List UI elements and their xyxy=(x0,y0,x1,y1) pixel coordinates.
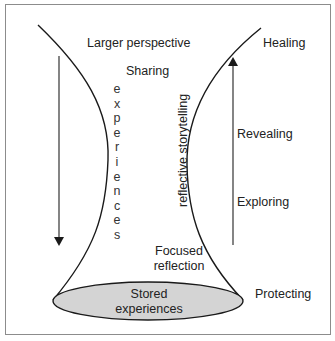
experiences-letter: x xyxy=(111,97,123,112)
sharing-label: Sharing xyxy=(126,64,169,79)
experiences-letter: p xyxy=(111,111,123,126)
exploring-label: Exploring xyxy=(237,195,289,210)
experiences-letter: c xyxy=(111,199,123,214)
experiences-letter: e xyxy=(111,126,123,141)
experiences-letter: e xyxy=(111,170,123,185)
experiences-vertical-label: experiences xyxy=(111,82,123,243)
left-funnel-curve xyxy=(38,25,108,300)
stored-experiences-label: Stored experiences xyxy=(110,287,188,317)
protecting-label: Protecting xyxy=(255,287,311,302)
focused-reflection-line2: reflection xyxy=(148,259,210,274)
stored-experiences-line2: experiences xyxy=(110,302,188,317)
experiences-letter: e xyxy=(111,82,123,97)
down-arrow-icon xyxy=(54,56,64,246)
revealing-label: Revealing xyxy=(237,127,293,142)
larger-perspective-label: Larger perspective xyxy=(87,36,191,51)
reflective-storytelling-label: reflective storytelling xyxy=(176,94,190,207)
experiences-letter: r xyxy=(111,140,123,155)
focused-reflection-label: Focused reflection xyxy=(148,244,210,274)
up-arrow-icon xyxy=(228,57,238,245)
stored-experiences-line1: Stored xyxy=(110,287,188,302)
focused-reflection-line1: Focused xyxy=(148,244,210,259)
experiences-letter: i xyxy=(111,155,123,170)
experiences-letter: n xyxy=(111,184,123,199)
experiences-letter: s xyxy=(111,228,123,243)
healing-label: Healing xyxy=(263,36,305,51)
experiences-letter: e xyxy=(111,213,123,228)
